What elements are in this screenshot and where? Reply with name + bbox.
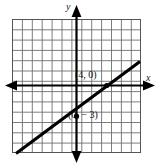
y-axis-label: y <box>66 2 70 12</box>
horizontal-axis <box>5 81 155 91</box>
plot-overlay-svg <box>0 0 161 168</box>
vertical-axis <box>72 5 82 163</box>
point-label-x-intercept: (4, 0) <box>75 70 97 80</box>
graph-figure: y x (4, 0) (0, − 3) <box>0 0 161 168</box>
x-axis-left-arrowhead <box>5 81 17 91</box>
point-label-y-intercept: (0, − 3) <box>68 110 98 120</box>
marker-x-intercept <box>104 83 109 88</box>
x-axis-label: x <box>146 73 150 83</box>
y-axis-down-arrowhead <box>72 151 82 163</box>
y-axis-up-arrowhead <box>72 5 82 17</box>
